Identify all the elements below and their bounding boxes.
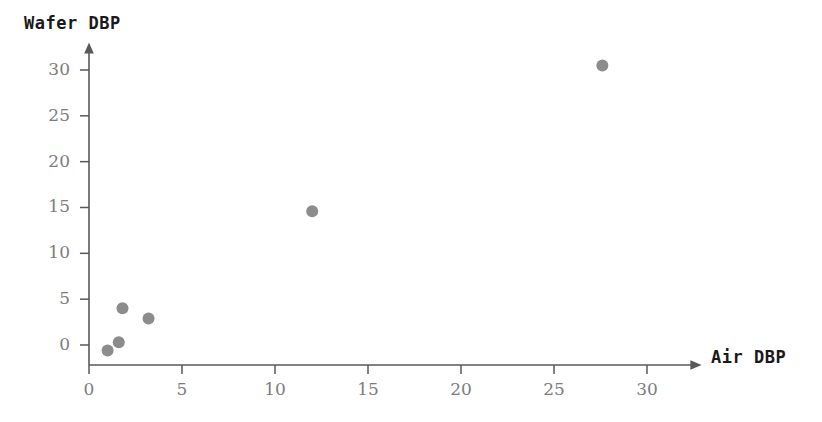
- y-tick-label: 25: [10, 105, 70, 125]
- y-tick-label: 20: [10, 151, 70, 171]
- y-tick-label: 10: [10, 242, 70, 262]
- data-point: [143, 312, 155, 324]
- data-point: [113, 336, 125, 348]
- data-point: [116, 302, 128, 314]
- x-axis-tick-marks: [89, 365, 647, 374]
- x-tick-label: 20: [431, 379, 491, 399]
- scatter-plot-figure: Wafer DBP Air DBP 0510152025300510152025…: [0, 0, 822, 422]
- x-tick-label: 25: [524, 379, 584, 399]
- y-tick-label: 0: [10, 334, 70, 354]
- data-points-layer: [102, 59, 609, 356]
- x-tick-label: 15: [338, 379, 398, 399]
- x-tick-label: 5: [152, 379, 212, 399]
- data-point: [596, 59, 608, 71]
- plot-canvas: [0, 0, 822, 422]
- x-tick-label: 0: [59, 379, 119, 399]
- data-point: [102, 345, 114, 357]
- y-tick-label: 30: [10, 59, 70, 79]
- axis-lines: [89, 52, 692, 365]
- x-tick-label: 30: [617, 379, 677, 399]
- data-point: [306, 205, 318, 217]
- y-tick-label: 5: [10, 288, 70, 308]
- y-axis-tick-marks: [80, 70, 89, 345]
- x-tick-label: 10: [245, 379, 305, 399]
- y-tick-label: 15: [10, 196, 70, 216]
